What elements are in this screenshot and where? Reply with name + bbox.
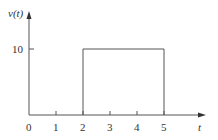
x-ticks (56, 111, 164, 115)
x-tick-label-1: 1 (53, 121, 59, 133)
y-axis-arrow-icon (27, 11, 32, 19)
pulse-chart: v(t) 10 0 1 2 3 4 5 t (0, 0, 218, 140)
y-tick-label-10: 10 (12, 43, 24, 55)
x-tick-label-5: 5 (161, 121, 167, 133)
x-tick-label-4: 4 (134, 121, 140, 133)
x-axis-arrow-icon (198, 113, 206, 118)
x-axis-label: t (198, 121, 202, 133)
x-tick-label-3: 3 (107, 121, 113, 133)
x-tick-label-2: 2 (80, 121, 86, 133)
pulse-line (83, 49, 164, 115)
x-tick-label-0: 0 (26, 121, 32, 133)
y-axis-label: v(t) (8, 7, 24, 20)
